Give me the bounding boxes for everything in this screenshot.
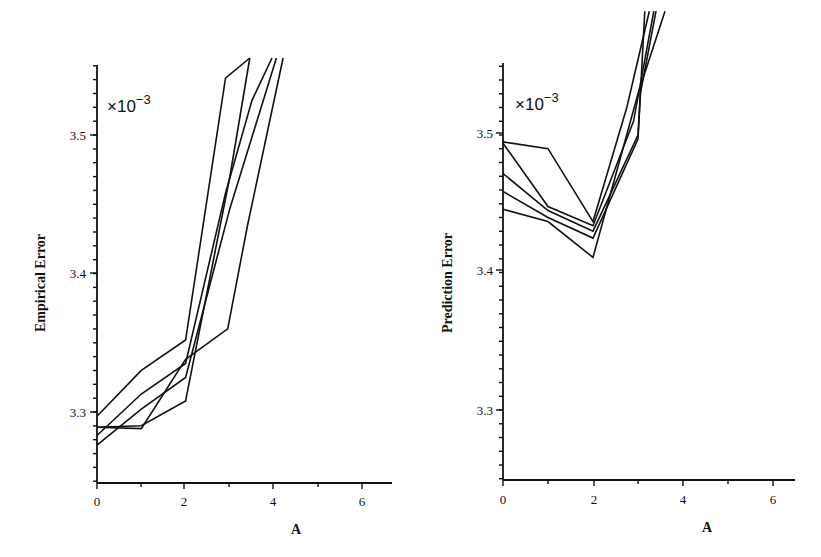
left-scale-base: ×10 [107,97,136,116]
right-scale-exponent: −3 [544,90,559,105]
right-y-axis-title: Prediction Error [440,233,455,333]
left-xtick-label: 2 [181,494,188,509]
right-scale-base: ×10 [515,95,544,114]
right-ytick-label: 3.3 [477,403,493,418]
left-ytick-label: 3.5 [70,128,86,143]
left-x-axis-title: A [291,522,302,537]
left-series-line [97,58,276,445]
right-xtick-label: 6 [770,492,777,507]
right-x-axis-title: A [702,520,713,535]
left-panel: 3.5 3.4 3.3 0 2 4 6 A Empirical Error ×1… [33,58,392,537]
left-ytick-label: 3.4 [70,266,87,281]
left-scale-exponent: −3 [136,92,151,107]
right-scale-annotation: ×10−3 [515,90,559,114]
right-ytick-label: 3.5 [477,126,493,141]
right-series-line [503,11,649,221]
right-xtick-label: 2 [591,492,598,507]
right-xtick-label: 4 [680,492,687,507]
right-xtick-label: 0 [500,492,507,507]
left-xtick-label: 0 [94,494,101,509]
left-xtick-label: 4 [270,494,277,509]
left-scale-annotation: ×10−3 [107,92,151,116]
left-y-axis-title: Empirical Error [33,234,48,332]
left-ytick-label: 3.3 [70,405,86,420]
left-series-group [97,58,283,445]
left-xtick-label: 6 [359,494,366,509]
figure: 3.5 3.4 3.3 0 2 4 6 A Empirical Error ×1… [0,0,821,557]
right-panel: 3.5 3.4 3.3 0 2 4 6 A Prediction Error ×… [440,11,795,535]
right-ytick-label: 3.4 [477,263,494,278]
right-series-group [503,11,665,257]
right-series-line [503,11,645,238]
